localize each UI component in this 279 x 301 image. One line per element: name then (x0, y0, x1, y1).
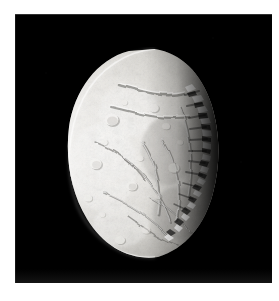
page-root (0, 0, 279, 301)
plate-bottom-shading (15, 269, 272, 283)
moon-disk (59, 47, 227, 262)
moon-graphic (59, 47, 227, 262)
moon-surface (59, 47, 227, 262)
limb-highlight (59, 47, 227, 262)
image-plate (15, 14, 272, 283)
